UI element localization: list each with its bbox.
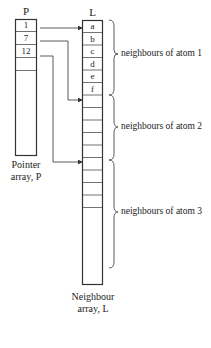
neighbour-value: d bbox=[82, 59, 103, 69]
group-braces bbox=[109, 20, 118, 268]
neighbour-value: c bbox=[82, 46, 103, 56]
neighbour-value: b bbox=[82, 34, 103, 44]
pointer-value: 7 bbox=[15, 33, 37, 43]
neighbour-array-title: L bbox=[82, 6, 103, 18]
pointer-array-caption: Pointer array, P bbox=[0, 159, 52, 183]
neighbour-caption-line2: array, L bbox=[66, 303, 120, 315]
pointer-caption-line1: Pointer bbox=[0, 159, 52, 171]
pointer-value: 1 bbox=[15, 20, 37, 30]
pointer-caption-line2: array, P bbox=[0, 171, 52, 183]
group-label-atom-3: neighbours of atom 3 bbox=[121, 206, 202, 216]
pointer-arrows bbox=[40, 28, 82, 162]
group-label-atom-1: neighbours of atom 1 bbox=[121, 48, 202, 58]
group-label-atom-2: neighbours of atom 2 bbox=[121, 121, 202, 131]
neighbour-value: f bbox=[82, 84, 103, 94]
neighbour-value: e bbox=[82, 71, 103, 81]
neighbour-array-caption: Neighbour array, L bbox=[66, 291, 120, 315]
pointer-array-title: P bbox=[15, 5, 37, 17]
pointer-value: 12 bbox=[15, 46, 37, 56]
neighbour-caption-line1: Neighbour bbox=[66, 291, 120, 303]
neighbour-value: a bbox=[82, 21, 103, 31]
